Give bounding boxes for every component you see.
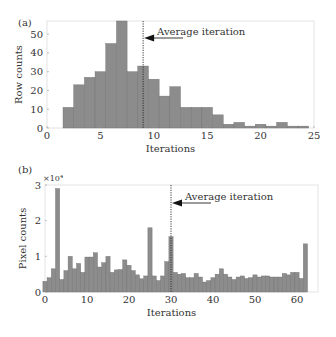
bar xyxy=(114,270,118,292)
bar xyxy=(72,269,76,292)
x-axis-label: Iterations xyxy=(146,143,195,154)
bar xyxy=(182,273,186,292)
bar xyxy=(161,276,165,292)
bar xyxy=(245,278,249,292)
bar xyxy=(98,267,102,292)
bar xyxy=(223,124,234,128)
panel-label: (b) xyxy=(18,165,32,175)
bar xyxy=(127,265,131,292)
bar xyxy=(165,262,169,292)
bar xyxy=(228,277,232,292)
bar xyxy=(135,275,139,292)
bar xyxy=(278,277,282,292)
bar xyxy=(211,278,215,292)
bar xyxy=(116,21,127,128)
bar xyxy=(123,260,127,292)
y-tick-label: 0 xyxy=(37,123,43,134)
bar xyxy=(198,277,202,292)
bar xyxy=(299,278,303,292)
bar xyxy=(177,274,181,292)
histogram-pixel-counts: 01020304050600123IterationsPixel counts(… xyxy=(0,165,336,337)
bar xyxy=(261,276,265,292)
bar xyxy=(291,272,295,292)
bar xyxy=(51,269,55,292)
bar xyxy=(287,126,298,128)
bar xyxy=(191,107,202,128)
x-tick-label: 60 xyxy=(291,294,304,305)
bar xyxy=(215,274,219,292)
bar xyxy=(106,256,110,292)
x-tick-label: 10 xyxy=(147,130,160,141)
bar xyxy=(152,276,156,292)
bar xyxy=(257,277,261,292)
bar xyxy=(84,77,95,128)
x-tick-label: 50 xyxy=(249,294,262,305)
bar xyxy=(95,72,106,128)
bar xyxy=(253,275,257,292)
x-tick-label: 5 xyxy=(97,130,103,141)
bar xyxy=(298,126,309,128)
bar xyxy=(274,277,278,292)
bar xyxy=(60,280,64,292)
x-tick-label: 25 xyxy=(308,130,321,141)
bar xyxy=(234,122,245,128)
bar xyxy=(194,273,198,292)
bar xyxy=(282,273,286,292)
annotation-text: Average iteration xyxy=(156,26,246,37)
y-multiplier: ×10⁴ xyxy=(43,174,63,183)
bar xyxy=(77,263,81,292)
y-tick-label: 10 xyxy=(30,104,43,115)
chart-b: 01020304050600123IterationsPixel counts(… xyxy=(0,165,336,337)
bar xyxy=(93,253,97,292)
histogram-row-counts: 051015202501020304050IterationsRow count… xyxy=(0,0,336,165)
bar xyxy=(47,278,51,292)
bar xyxy=(207,281,211,292)
y-tick-label: 20 xyxy=(30,85,43,96)
y-tick-label: 50 xyxy=(30,29,43,40)
bar xyxy=(144,276,148,292)
bar xyxy=(203,282,207,292)
annotation-text: Average iteration xyxy=(184,191,274,202)
bar xyxy=(236,277,240,292)
bar xyxy=(190,278,194,292)
y-tick-label: 3 xyxy=(35,180,41,191)
bar xyxy=(240,276,244,292)
bar xyxy=(170,87,181,128)
bar xyxy=(68,256,72,292)
y-tick-label: 2 xyxy=(35,215,41,226)
bar xyxy=(110,272,114,292)
bar xyxy=(56,189,60,292)
bar xyxy=(249,278,253,292)
bar xyxy=(270,277,274,292)
y-tick-label: 0 xyxy=(35,287,41,298)
y-tick-label: 40 xyxy=(30,47,43,58)
x-tick-label: 0 xyxy=(42,294,48,305)
bar xyxy=(140,279,144,292)
bar xyxy=(266,126,277,128)
y-axis-label: Row counts xyxy=(13,45,24,104)
bar xyxy=(186,278,190,292)
bar xyxy=(232,280,236,292)
bar xyxy=(102,263,106,292)
bar xyxy=(303,244,307,292)
bar xyxy=(159,96,170,128)
bar xyxy=(219,269,223,292)
x-tick-label: 15 xyxy=(201,130,214,141)
chart-a: 051015202501020304050IterationsRow count… xyxy=(0,0,336,165)
bar xyxy=(173,272,177,292)
bar xyxy=(266,276,270,292)
bar xyxy=(106,44,117,128)
x-tick-label: 20 xyxy=(123,294,136,305)
bar xyxy=(81,272,85,292)
bar xyxy=(287,275,291,292)
bar xyxy=(131,271,135,292)
bar xyxy=(277,122,288,128)
bar xyxy=(127,72,138,128)
bar xyxy=(85,257,89,292)
bar xyxy=(224,274,228,292)
bar xyxy=(74,85,85,128)
bar xyxy=(295,272,299,292)
bar xyxy=(213,115,224,128)
panel-label: (a) xyxy=(18,17,32,28)
x-tick-label: 30 xyxy=(165,294,178,305)
